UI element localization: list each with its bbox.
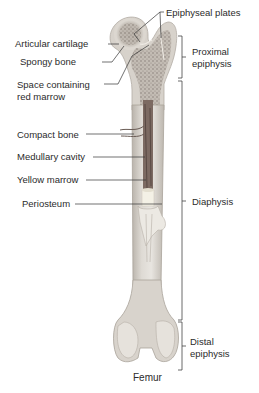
label-medullary-cavity: Medullary cavity: [17, 151, 85, 162]
figure-caption: Femur: [133, 372, 162, 383]
label-proximal-epiphysis-2: epiphysis: [192, 58, 232, 69]
label-spongy-bone: Spongy bone: [20, 56, 76, 67]
label-proximal-epiphysis-1: Proximal: [192, 46, 229, 57]
right-brackets: [178, 36, 186, 370]
label-articular-cartilage: Articular cartilage: [15, 38, 88, 49]
label-compact-bone: Compact bone: [17, 129, 79, 140]
femur-diagram: Articular cartilage Spongy bone Space co…: [0, 0, 259, 393]
label-periosteum: Periosteum: [22, 198, 70, 209]
label-yellow-marrow: Yellow marrow: [17, 174, 78, 185]
label-space-red-marrow-1: Space containing: [17, 79, 90, 90]
label-distal-epiphysis-1: Distal: [190, 336, 214, 347]
diaphysis-shaft: [120, 100, 165, 285]
label-diaphysis: Diaphysis: [192, 196, 233, 207]
label-epiphyseal-plates: Epiphyseal plates: [166, 7, 240, 18]
label-space-red-marrow-2: red marrow: [17, 91, 65, 102]
label-distal-epiphysis-2: epiphysis: [190, 348, 230, 359]
distal-end: [114, 280, 179, 362]
